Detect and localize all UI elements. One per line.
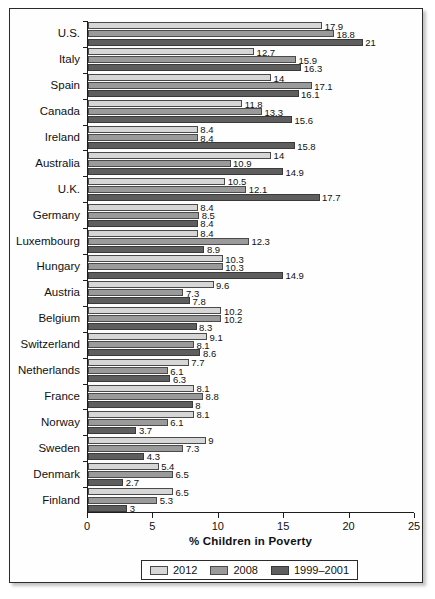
bar-group: Austria9.67.37.8 xyxy=(88,280,414,306)
bar-2008 xyxy=(88,160,231,167)
bar-2008 xyxy=(88,82,312,89)
legend-item-2008[interactable]: 2008 xyxy=(210,564,257,576)
bar-group: Norway8.16.13.7 xyxy=(88,409,414,435)
legend-label: 2008 xyxy=(233,564,257,576)
bar-group: Italy12.715.916.3 xyxy=(88,47,414,73)
bar-1999-2001 xyxy=(88,479,123,486)
bar-1999-2001 xyxy=(88,349,200,356)
bar-value-label: 6.5 xyxy=(176,488,189,497)
bar-2008 xyxy=(88,134,198,141)
bar-value-label: 8.3 xyxy=(199,323,212,332)
bar-group: Luxembourg8.412.38.9 xyxy=(88,228,414,254)
plot-area: 0510152025 U.S.17.918.821Italy12.715.916… xyxy=(87,21,414,513)
bar-value-label: 10.2 xyxy=(224,315,243,324)
bar-group: Denmark5.46.52.7 xyxy=(88,461,414,487)
bar-value-label: 21 xyxy=(365,38,376,47)
bar-2012 xyxy=(88,178,225,185)
category-label-switzerland: Switzerland xyxy=(21,338,80,350)
bar-2008 xyxy=(88,56,296,63)
bar-value-label: 6.5 xyxy=(176,470,189,479)
category-label-spain: Spain xyxy=(51,79,80,91)
x-tick-mark xyxy=(283,513,284,518)
bar-2008 xyxy=(88,212,199,219)
legend-swatch-icon xyxy=(150,566,168,575)
bar-group: Ireland8.48.415.8 xyxy=(88,125,414,151)
bar-value-label: 8 xyxy=(195,401,200,410)
legend-label: 2012 xyxy=(173,564,197,576)
bar-2012 xyxy=(88,255,223,262)
category-label-luxembourg: Luxembourg xyxy=(16,235,80,247)
x-axis-title: % Children in Poverty xyxy=(87,535,414,547)
bar-2012 xyxy=(88,74,271,81)
bar-value-label: 16.3 xyxy=(304,64,323,73)
bar-value-label: 8.4 xyxy=(200,219,213,228)
x-tick-mark xyxy=(349,513,350,518)
bar-group: U.K.10.512.117.7 xyxy=(88,176,414,202)
bar-2008 xyxy=(88,238,249,245)
legend-label: 1999–2001 xyxy=(294,564,349,576)
bar-value-label: 8.6 xyxy=(203,349,216,358)
bar-value-label: 8.1 xyxy=(196,410,209,419)
category-label-sweden: Sweden xyxy=(38,442,80,454)
bar-1999-2001 xyxy=(88,116,292,123)
bar-1999-2001 xyxy=(88,64,301,71)
bar-2012 xyxy=(88,100,242,107)
bar-2008 xyxy=(88,445,183,452)
bar-value-label: 12.3 xyxy=(251,237,270,246)
chart-legend: 201220081999–2001 xyxy=(141,560,358,580)
bar-group: Switzerland9.18.18.6 xyxy=(88,332,414,358)
bar-value-label: 4.3 xyxy=(147,452,160,461)
bar-value-label: 7.3 xyxy=(186,444,199,453)
legend-swatch-icon xyxy=(271,566,289,575)
bar-2012 xyxy=(88,463,159,470)
bar-value-label: 9.1 xyxy=(210,333,223,342)
bar-1999-2001 xyxy=(88,168,283,175)
bar-2008 xyxy=(88,30,334,37)
bar-2008 xyxy=(88,289,183,296)
legend-swatch-icon xyxy=(210,566,228,575)
bar-value-label: 7.8 xyxy=(193,297,206,306)
bar-2008 xyxy=(88,393,203,400)
bar-group: Finland6.55.33 xyxy=(88,487,414,513)
bar-1999-2001 xyxy=(88,401,193,408)
x-tick-label: 25 xyxy=(408,520,420,532)
bar-value-label: 16.1 xyxy=(301,90,320,99)
bar-2008 xyxy=(88,419,168,426)
bar-value-label: 6.3 xyxy=(173,375,186,384)
category-label-ireland: Ireland xyxy=(45,131,80,143)
x-tick-mark xyxy=(152,513,153,518)
bar-value-label: 8.8 xyxy=(206,392,219,401)
bar-group: U.S.17.918.821 xyxy=(88,21,414,47)
bar-2012 xyxy=(88,385,194,392)
bar-value-label: 9 xyxy=(208,436,213,445)
bar-value-label: 3.7 xyxy=(139,426,152,435)
category-label-u-s: U.S. xyxy=(58,27,80,39)
legend-item-2012[interactable]: 2012 xyxy=(150,564,197,576)
x-tick-label: 10 xyxy=(212,520,224,532)
bar-1999-2001 xyxy=(88,142,295,149)
bar-1999-2001 xyxy=(88,90,299,97)
category-label-u-k: U.K. xyxy=(58,183,80,195)
bar-1999-2001 xyxy=(88,323,197,330)
bar-1999-2001 xyxy=(88,39,363,46)
bar-group: Hungary10.310.314.9 xyxy=(88,254,414,280)
bar-2008 xyxy=(88,341,194,348)
bar-value-label: 15.8 xyxy=(297,142,316,151)
legend-item-1999-2001[interactable]: 1999–2001 xyxy=(271,564,349,576)
bar-2012 xyxy=(88,307,221,314)
category-label-canada: Canada xyxy=(40,105,80,117)
bar-1999-2001 xyxy=(88,427,136,434)
bar-2012 xyxy=(88,22,322,29)
bar-2008 xyxy=(88,497,157,504)
category-label-italy: Italy xyxy=(59,53,80,65)
category-label-netherlands: Netherlands xyxy=(18,364,80,376)
x-tick-label: 0 xyxy=(84,520,90,532)
bar-2012 xyxy=(88,204,198,211)
bar-2012 xyxy=(88,126,198,133)
bar-value-label: 17.7 xyxy=(322,193,341,202)
bar-1999-2001 xyxy=(88,272,283,279)
bar-value-label: 6.1 xyxy=(170,418,183,427)
bar-2008 xyxy=(88,108,262,115)
bar-value-label: 3 xyxy=(130,504,135,513)
category-label-germany: Germany xyxy=(33,209,80,221)
